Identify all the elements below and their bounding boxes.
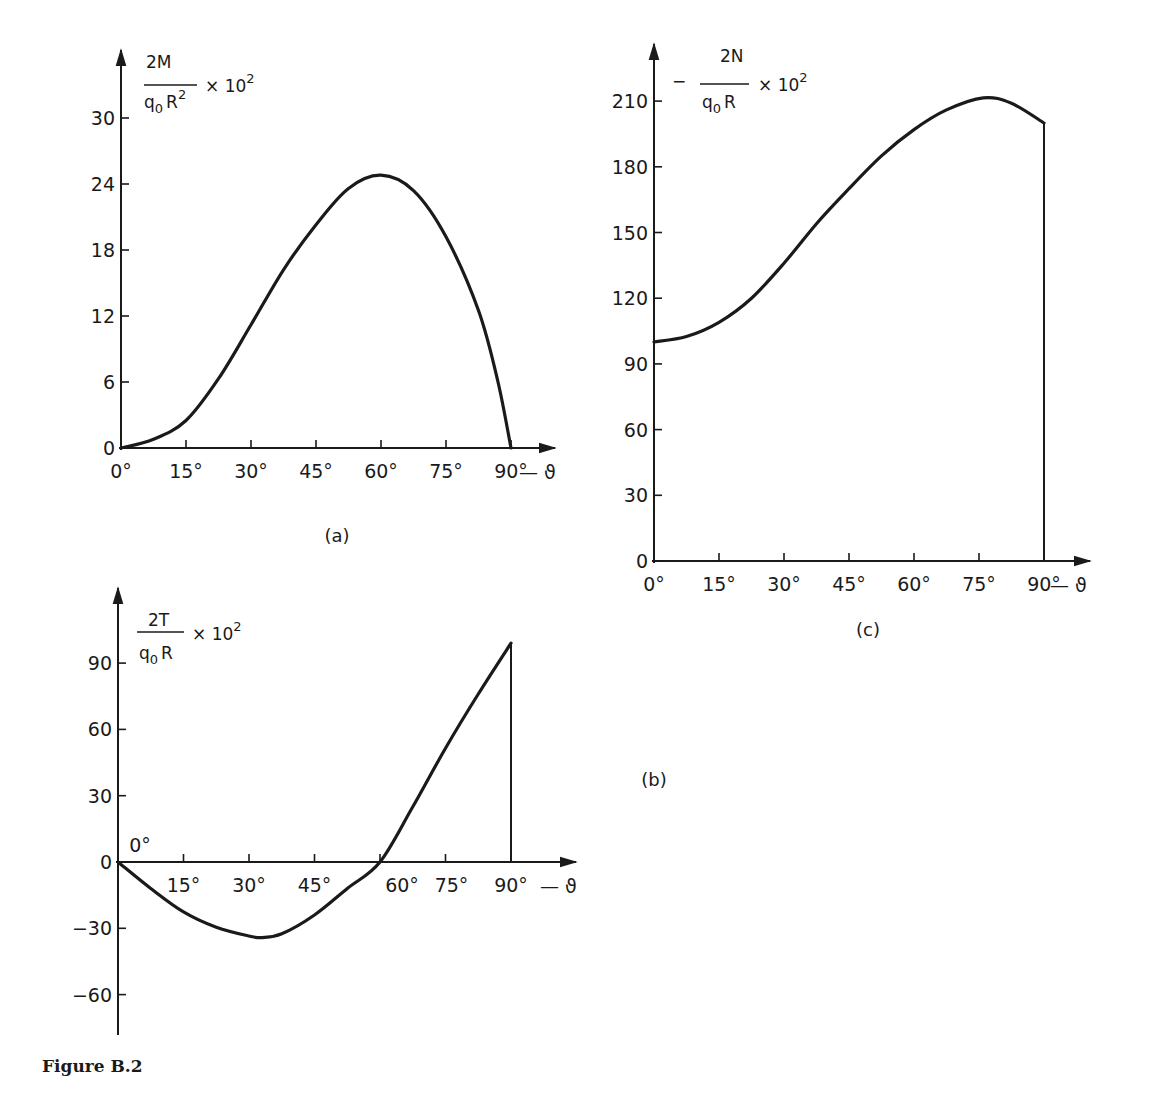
y-tick-label: 30 — [91, 107, 115, 129]
chart-c-ylabel-numerator: 2N — [720, 46, 744, 66]
x-tick-label: 75° — [962, 573, 996, 595]
x-tick-label: 15° — [167, 874, 201, 896]
x-tick-label: 15° — [169, 460, 203, 482]
y-tick-label: 150 — [612, 222, 648, 244]
chart-b: −60−300306090 0°15°30°45°60°75°90° 2T q0… — [72, 588, 667, 1035]
y-tick-label: 12 — [91, 305, 115, 327]
chart-b-xlabel: — ϑ — [540, 875, 577, 897]
x-tick-label: 75° — [429, 460, 463, 482]
y-tick-label: 0 — [636, 550, 648, 572]
x-tick-label: 15° — [702, 573, 736, 595]
x-tick-label: 45° — [298, 874, 332, 896]
x-tick-label: 0° — [643, 573, 665, 595]
chart-a-x-ticks: 0°15°30°45°60°75°90° — [110, 440, 528, 482]
figure-canvas: 0612182430 0°15°30°45°60°75°90° 2M q0R2 … — [0, 0, 1150, 1096]
chart-c-ylabel-denominator: q0R — [702, 92, 736, 116]
chart-b-ylabel: 2T q0R × 102 — [137, 610, 242, 667]
y-tick-label: −30 — [72, 917, 112, 939]
y-tick-label: 0 — [100, 851, 112, 873]
x-tick-label: 30° — [767, 573, 801, 595]
chart-a-y-ticks: 0612182430 — [91, 107, 129, 459]
x-tick-label: 45° — [832, 573, 866, 595]
chart-c-xlabel: — ϑ — [1050, 574, 1087, 596]
chart-c-ylabel-suffix: × 102 — [758, 70, 808, 95]
chart-c-ylabel: − 2N q0R × 102 — [672, 46, 808, 116]
x-tick-label: 0° — [129, 834, 151, 856]
chart-a-ylabel-denominator: q0R2 — [144, 87, 186, 116]
chart-c-ylabel-prefix: − — [672, 71, 686, 91]
chart-a-ylabel-suffix: × 102 — [205, 71, 255, 96]
x-tick-label: 75° — [435, 874, 469, 896]
y-tick-label: 30 — [624, 484, 648, 506]
chart-a-ylabel: 2M q0R2 × 102 — [144, 52, 255, 116]
chart-a-curve — [121, 175, 511, 448]
chart-b-panel-label: (b) — [641, 769, 666, 790]
y-tick-label: 120 — [612, 287, 648, 309]
x-tick-label: 30° — [234, 460, 268, 482]
x-tick-label: 60° — [897, 573, 931, 595]
y-tick-label: 90 — [88, 652, 112, 674]
x-tick-label: 60° — [364, 460, 398, 482]
chart-b-ylabel-numerator: 2T — [148, 610, 170, 630]
y-tick-label: 24 — [91, 173, 115, 195]
chart-a-panel-label: (a) — [324, 525, 349, 546]
y-tick-label: 60 — [88, 718, 112, 740]
y-tick-label: 60 — [624, 419, 648, 441]
y-tick-label: 18 — [91, 239, 115, 261]
chart-c: 0306090120150180210 0°15°30°45°60°75°90°… — [612, 44, 1090, 640]
y-tick-label: −60 — [72, 984, 112, 1006]
chart-a-ylabel-numerator: 2M — [146, 52, 171, 72]
chart-b-ylabel-denominator: q0R — [139, 643, 173, 667]
chart-b-ylabel-suffix: × 102 — [192, 619, 242, 644]
y-tick-label: 0 — [103, 437, 115, 459]
chart-c-panel-label: (c) — [856, 619, 880, 640]
x-tick-label: 45° — [299, 460, 333, 482]
y-tick-label: 180 — [612, 156, 648, 178]
figure-caption: Figure B.2 — [42, 1056, 143, 1076]
y-tick-label: 30 — [88, 785, 112, 807]
x-tick-label: 90° — [494, 874, 528, 896]
x-tick-label: 60° — [385, 874, 419, 896]
x-tick-label: 0° — [110, 460, 132, 482]
y-tick-label: 90 — [624, 353, 648, 375]
chart-c-x-ticks: 0°15°30°45°60°75°90° — [643, 553, 1061, 595]
chart-a-xlabel: — ϑ — [519, 461, 556, 483]
x-tick-label: 30° — [232, 874, 266, 896]
chart-c-curve — [654, 98, 1044, 342]
chart-a: 0612182430 0°15°30°45°60°75°90° 2M q0R2 … — [91, 50, 556, 546]
y-tick-label: 6 — [103, 371, 115, 393]
chart-b-x-ticks: 0°15°30°45°60°75°90° — [129, 834, 528, 896]
y-tick-label: 210 — [612, 90, 648, 112]
